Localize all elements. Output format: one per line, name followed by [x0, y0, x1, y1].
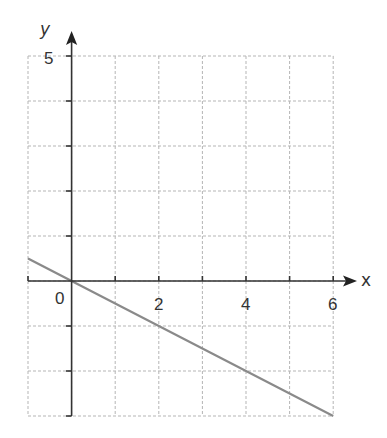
x-axis	[28, 276, 348, 281]
origin-label: 0	[55, 289, 64, 308]
x-tick-label-4: 4	[241, 295, 250, 314]
grid	[28, 56, 333, 416]
y-axis-label: y	[39, 19, 51, 39]
y-tick-label-5: 5	[44, 49, 53, 68]
chart: y x 5 0 2 4 6	[0, 0, 387, 438]
x-tick-label-2: 2	[154, 295, 163, 314]
data-line	[28, 259, 333, 417]
x-axis-label: x	[361, 270, 371, 290]
x-tick-label-6: 6	[328, 295, 337, 314]
y-axis	[66, 38, 72, 416]
